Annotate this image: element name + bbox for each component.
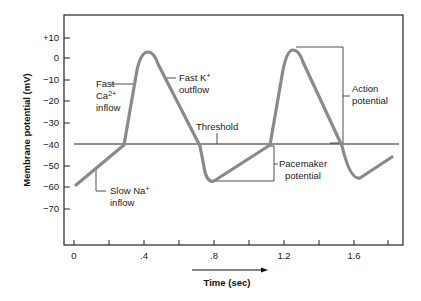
pacemaker-label: potential <box>285 170 321 181</box>
time-arrow <box>192 268 268 273</box>
x-tick-label: 1.2 <box>277 250 290 261</box>
fast-k-label: outflow <box>179 84 209 95</box>
y-tick-label: −20 <box>43 95 59 106</box>
x-axis-ticks <box>74 240 388 245</box>
slow-na-label: inflow <box>110 197 134 208</box>
slow-na-label: Slow Na+ <box>110 185 149 196</box>
y-axis-tick-labels: +10 0 −10 −20 −30 −40 −50 −60 −70 <box>43 32 59 214</box>
x-axis-tick-labels: 0 .4 .8 1.2 1.6 <box>71 250 360 261</box>
y-tick-label: −70 <box>43 203 59 214</box>
threshold-label: Threshold <box>196 121 238 132</box>
fast-ca-label: Fast <box>96 78 115 89</box>
y-tick-label: −10 <box>43 74 59 85</box>
fast-k-label: Fast K+ <box>179 72 211 83</box>
membrane-potential-curve <box>76 50 392 185</box>
x-tick-label: .4 <box>140 250 148 261</box>
x-tick-label: 1.6 <box>347 250 360 261</box>
y-tick-label: 0 <box>54 52 59 63</box>
action-potential-label: Action <box>352 83 378 94</box>
x-tick-label: .8 <box>210 250 218 261</box>
pacemaker-label: Pacemaker <box>279 158 327 169</box>
x-tick-label: 0 <box>71 250 76 261</box>
slow-na-leader <box>96 168 106 191</box>
membrane-potential-chart: +10 0 −10 −20 −30 −40 −50 −60 −70 0 .4 .… <box>0 0 421 301</box>
y-tick-label: −40 <box>43 139 59 150</box>
y-tick-label: −60 <box>43 181 59 192</box>
y-tick-label: +10 <box>43 32 59 43</box>
fast-ca-label: Ca2+ <box>96 90 116 101</box>
y-axis-title: Membrane potential (mV) <box>21 73 32 187</box>
x-axis-title: Time (sec) <box>204 277 251 288</box>
action-potential-label: potential <box>352 95 388 106</box>
y-tick-label: −50 <box>43 160 59 171</box>
fast-ca-label: inflow <box>96 102 120 113</box>
y-tick-label: −30 <box>43 117 59 128</box>
y-axis-ticks <box>64 38 70 209</box>
